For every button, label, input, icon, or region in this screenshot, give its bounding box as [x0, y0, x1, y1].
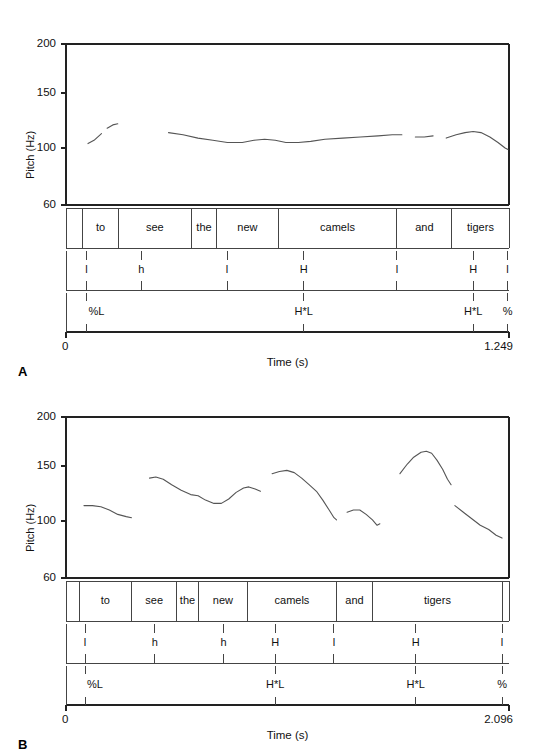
y-axis-title: Pitch (Hz) — [24, 504, 36, 552]
panel-plot-svg — [0, 0, 550, 373]
pitch-contour-segment — [149, 477, 260, 503]
panel-plot-svg — [0, 373, 550, 746]
x-axis-title: Time (s) — [66, 356, 509, 368]
pitch-contour-segment — [455, 506, 502, 538]
pitch-contour-segment — [272, 470, 336, 520]
pitch-contour-segment — [400, 451, 451, 484]
pitch-contour-segment — [347, 510, 380, 525]
pitch-contour-segment — [88, 134, 101, 144]
pitch-contour-segment — [415, 136, 433, 137]
figure-panel-b: 20015010060toseethenewcamelsandtigerslhh… — [0, 373, 550, 746]
pitch-contour-segment — [107, 124, 118, 128]
pitch-contour-segment — [446, 132, 508, 150]
y-axis-title: Pitch (Hz) — [24, 131, 36, 179]
pitch-contour-segment — [169, 133, 402, 143]
x-axis-title: Time (s) — [66, 729, 509, 741]
panel-letter: B — [18, 737, 28, 752]
figure-panel-a: 20015010060toseethenewcamelsandtigerslhl… — [0, 0, 550, 373]
pitch-contour-segment — [84, 506, 132, 518]
